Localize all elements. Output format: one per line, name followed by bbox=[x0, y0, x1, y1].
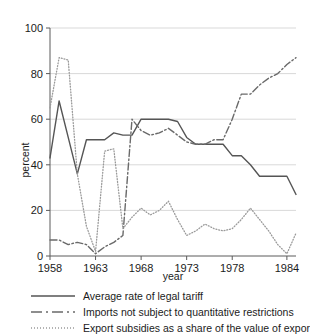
y-axis-title: percent bbox=[19, 142, 31, 177]
series-line bbox=[50, 58, 296, 254]
legend-label-average-tariff: Average rate of legal tariff bbox=[83, 290, 203, 302]
x-axis-title: year bbox=[163, 270, 184, 282]
y-axis-ticks: 020406080100 bbox=[25, 22, 50, 262]
chart-figure: 020406080100 195819631968197319781984 pe… bbox=[0, 0, 310, 336]
legend-item-solid: Average rate of legal tariff bbox=[0, 288, 310, 304]
line-chart: 020406080100 195819631968197319781984 pe… bbox=[0, 0, 310, 290]
y-tick-label: 20 bbox=[31, 204, 43, 216]
gridlines bbox=[50, 28, 296, 210]
legend-swatch-dashdot-line-icon bbox=[30, 306, 76, 318]
x-tick-label: 1978 bbox=[220, 262, 244, 274]
series-line bbox=[50, 101, 296, 194]
y-tick-label: 40 bbox=[31, 159, 43, 171]
legend-item-dashdot: Imports not subject to quantitative rest… bbox=[0, 304, 310, 320]
data-series-group bbox=[50, 58, 296, 254]
chart-legend: Average rate of legal tariff Imports not… bbox=[0, 288, 310, 336]
legend-label-export-subsidies: Export subsidies as a share of the value… bbox=[83, 322, 310, 334]
y-tick-label: 0 bbox=[37, 250, 43, 262]
y-tick-label: 80 bbox=[31, 68, 43, 80]
x-tick-label: 1968 bbox=[129, 262, 153, 274]
y-tick-label: 60 bbox=[31, 113, 43, 125]
axis-lines bbox=[50, 28, 296, 256]
x-tick-label: 1958 bbox=[38, 262, 62, 274]
series-line bbox=[50, 58, 296, 254]
legend-label-imports-no-qr: Imports not subject to quantitative rest… bbox=[83, 306, 294, 318]
x-tick-label: 1963 bbox=[83, 262, 107, 274]
legend-swatch-solid-line-icon bbox=[30, 290, 76, 302]
x-tick-label: 1984 bbox=[275, 262, 299, 274]
legend-item-dotted: Export subsidies as a share of the value… bbox=[0, 320, 310, 336]
y-tick-label: 100 bbox=[25, 22, 43, 34]
legend-swatch-dotted-line-icon bbox=[30, 322, 76, 334]
